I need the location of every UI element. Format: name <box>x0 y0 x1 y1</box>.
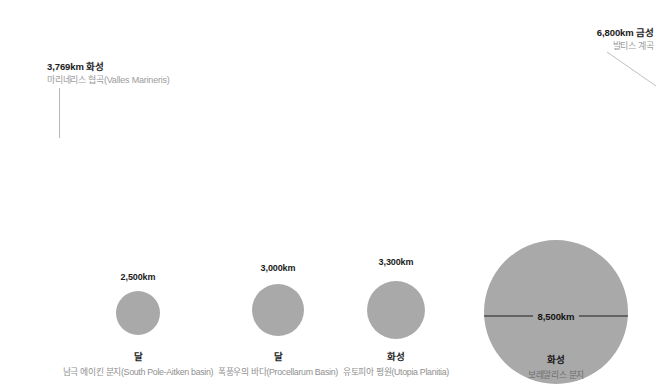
feature-name-mars-utopia: 유토피아 평원(Utopia Planitia) <box>343 365 449 379</box>
feature-name-moon-procellarum: 폭풍우의 바다(Procellarum Basin) <box>218 365 338 379</box>
size-label-moon-spa: 2,500km <box>121 272 156 282</box>
disc-mars-utopia <box>367 281 425 339</box>
disc-moon-procellarum <box>252 284 304 336</box>
caption-mars-borealis: 화성 보레알리스 분지 <box>528 353 584 382</box>
diameter-rule-right <box>579 316 628 317</box>
caption-moon-procellarum: 달 폭풍우의 바다(Procellarum Basin) <box>218 350 338 379</box>
diameter-rule-left <box>484 316 533 317</box>
callout-mars-valles-feature: 마리네리스 협곡(Valles Marineris) <box>47 74 170 87</box>
leader-line-venus-baltis <box>598 46 664 92</box>
callout-mars-valles-title: 3,769km 화성 <box>47 60 170 73</box>
body-name-moon-procellarum: 달 <box>218 350 338 364</box>
disc-moon-spa <box>116 291 160 335</box>
size-label-mars-borealis: 8,500km <box>538 311 575 322</box>
feature-name-mars-borealis: 보레알리스 분지 <box>528 368 584 382</box>
body-name-moon-spa: 달 <box>63 350 213 364</box>
feature-name-moon-spa: 남극 에이킨 분지(South Pole-Aitken basin) <box>63 365 213 379</box>
leader-line-mars-valles <box>50 88 74 144</box>
diameter-rule-mars-borealis: 8,500km <box>484 311 628 322</box>
callout-venus-baltis-title: 6,800km 금성 <box>597 26 654 39</box>
caption-moon-spa: 달 남극 에이킨 분지(South Pole-Aitken basin) <box>63 350 213 379</box>
callout-mars-valles: 3,769km 화성 마리네리스 협곡(Valles Marineris) <box>47 60 170 87</box>
caption-mars-utopia: 화성 유토피아 평원(Utopia Planitia) <box>343 350 449 379</box>
infographic-canvas: 3,769km 화성 마리네리스 협곡(Valles Marineris) 6,… <box>0 0 668 391</box>
size-label-mars-utopia: 3,300km <box>379 257 414 267</box>
body-name-mars-borealis: 화성 <box>528 353 584 367</box>
body-name-mars-utopia: 화성 <box>343 350 449 364</box>
size-label-moon-procellarum: 3,000km <box>261 263 296 273</box>
